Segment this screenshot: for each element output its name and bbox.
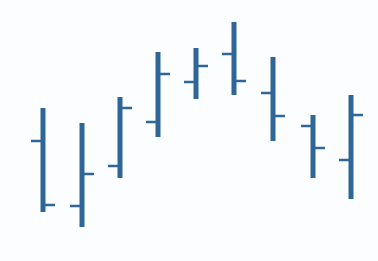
ohlc-bar: [108, 97, 132, 178]
ohlc-bar: [339, 95, 363, 199]
ohlc-chart: [0, 0, 378, 261]
ohlc-bar: [301, 115, 325, 178]
ohlc-bar: [70, 123, 94, 227]
ohlc-bar: [184, 48, 208, 99]
ohlc-bar: [261, 57, 285, 141]
ohlc-bar: [31, 108, 55, 212]
ohlc-bar: [222, 22, 246, 95]
ohlc-plot-area: [0, 0, 378, 261]
ohlc-bar: [146, 52, 170, 137]
